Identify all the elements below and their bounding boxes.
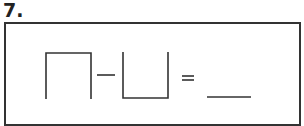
equals-sign (182, 76, 194, 80)
expression (0, 0, 304, 126)
cup-shape-icon (123, 52, 168, 98)
cap-shape-icon (46, 53, 91, 99)
